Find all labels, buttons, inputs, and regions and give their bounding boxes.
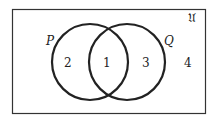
region-p-and-q: 1 (103, 56, 111, 70)
venn-diagram: 𝔘 P Q 2 1 3 4 (0, 0, 217, 119)
region-outside: 4 (184, 56, 192, 70)
set-q-label: Q (164, 34, 174, 48)
region-only-p: 2 (64, 56, 72, 70)
region-only-q: 3 (142, 56, 150, 70)
set-p-label: P (45, 34, 55, 48)
universe-label: 𝔘 (188, 11, 196, 25)
